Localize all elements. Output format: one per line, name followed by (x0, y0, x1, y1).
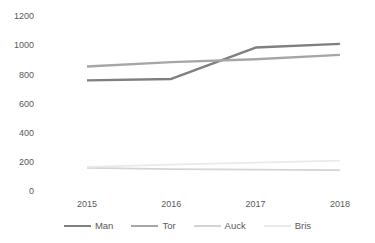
y-axis-tick-label: 200 (19, 157, 34, 167)
line-chart: 0200400600800100012002015201620172018 Ma… (0, 0, 375, 243)
legend-item-bris: Bris (264, 221, 311, 231)
chart-plot-area: 0200400600800100012002015201620172018 (0, 0, 375, 243)
legend-item-man: Man (64, 221, 113, 231)
chart-legend: ManTorAuckBris (0, 221, 375, 231)
series-line-auck (87, 168, 340, 170)
x-axis-tick-label: 2016 (161, 199, 181, 209)
legend-line-swatch (264, 225, 291, 227)
x-axis-tick-label: 2015 (77, 199, 97, 209)
series-line-tor (87, 55, 340, 67)
series-line-man (87, 44, 340, 80)
y-axis-tick-label: 400 (19, 128, 34, 138)
y-axis-tick-label: 1200 (14, 11, 34, 21)
y-axis-tick-label: 1000 (14, 40, 34, 50)
series-line-bris (87, 161, 340, 167)
legend-item-tor: Tor (131, 221, 175, 231)
y-axis-tick-label: 800 (19, 70, 34, 80)
legend-item-auck: Auck (194, 221, 246, 231)
legend-label: Man (95, 221, 113, 231)
legend-line-swatch (64, 225, 91, 227)
x-axis-tick-label: 2017 (246, 199, 266, 209)
legend-label: Auck (225, 221, 246, 231)
y-axis-tick-label: 0 (29, 186, 34, 196)
legend-label: Tor (162, 221, 175, 231)
y-axis-tick-label: 600 (19, 99, 34, 109)
legend-label: Bris (295, 221, 311, 231)
x-axis-tick-label: 2018 (330, 199, 350, 209)
legend-line-swatch (194, 225, 221, 227)
legend-line-swatch (131, 225, 158, 227)
